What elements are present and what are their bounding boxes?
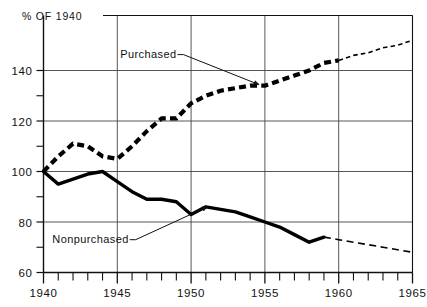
annotation-label-nonpurchased: Nonpurchased (52, 233, 128, 245)
line-chart: PurchasedNonpurchased 608010012014019401… (0, 0, 427, 307)
annotation-leader-purchased (178, 55, 260, 85)
x-tick-label-1965: 1965 (399, 287, 427, 299)
series-line-purchased-projected (339, 40, 413, 60)
y-tick-label-100: 100 (12, 166, 33, 178)
annotation-arrow-purchased (254, 81, 260, 85)
axis-ticks (37, 71, 413, 284)
x-tick-label-1955: 1955 (251, 287, 279, 299)
annotation-leader-nonpurchased (130, 207, 208, 240)
y-tick-label-120: 120 (12, 116, 33, 128)
x-tick-label-1950: 1950 (177, 287, 205, 299)
series-line-nonpurchased-projected (324, 237, 413, 252)
annotation-label-purchased: Purchased (120, 48, 176, 60)
chart-container: PurchasedNonpurchased 608010012014019401… (0, 0, 427, 307)
x-tick-label-1940: 1940 (30, 287, 58, 299)
series-line-nonpurchased (44, 172, 324, 243)
y-tick-label-60: 60 (19, 267, 33, 279)
y-tick-label-140: 140 (12, 65, 33, 77)
x-tick-label-1960: 1960 (325, 287, 353, 299)
y-tick-label-80: 80 (19, 217, 33, 229)
x-tick-label-1945: 1945 (103, 287, 131, 299)
y-axis-title: % OF 1940 (22, 10, 82, 22)
